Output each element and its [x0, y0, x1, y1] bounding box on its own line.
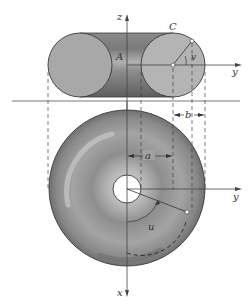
y-axis-label-elevation: y [231, 66, 238, 77]
left-cross-section [48, 33, 112, 97]
torus-diagram: z y A C v y x u [0, 0, 249, 305]
x-axis-arrow-icon [125, 290, 129, 297]
dim-b-arrow-left-icon [174, 113, 180, 117]
surface-point-elevation [190, 39, 194, 43]
dim-a-label: a [145, 150, 151, 161]
point-C-label: C [169, 21, 177, 32]
center-point [171, 63, 175, 67]
z-axis-label: z [116, 11, 123, 22]
x-axis-label: x [117, 287, 123, 298]
plan-view: y x u a b [49, 101, 242, 298]
point-A-label: A [115, 51, 123, 62]
z-axis-arrow-icon [125, 14, 129, 21]
angle-u-label: u [148, 221, 154, 232]
surface-point-plan [185, 210, 189, 214]
dim-b-label: b [185, 109, 191, 120]
dim-b-arrow-right-icon [198, 113, 204, 117]
y-axis-label-plan: y [232, 191, 239, 202]
elevation-view: z y A C v [48, 11, 242, 112]
